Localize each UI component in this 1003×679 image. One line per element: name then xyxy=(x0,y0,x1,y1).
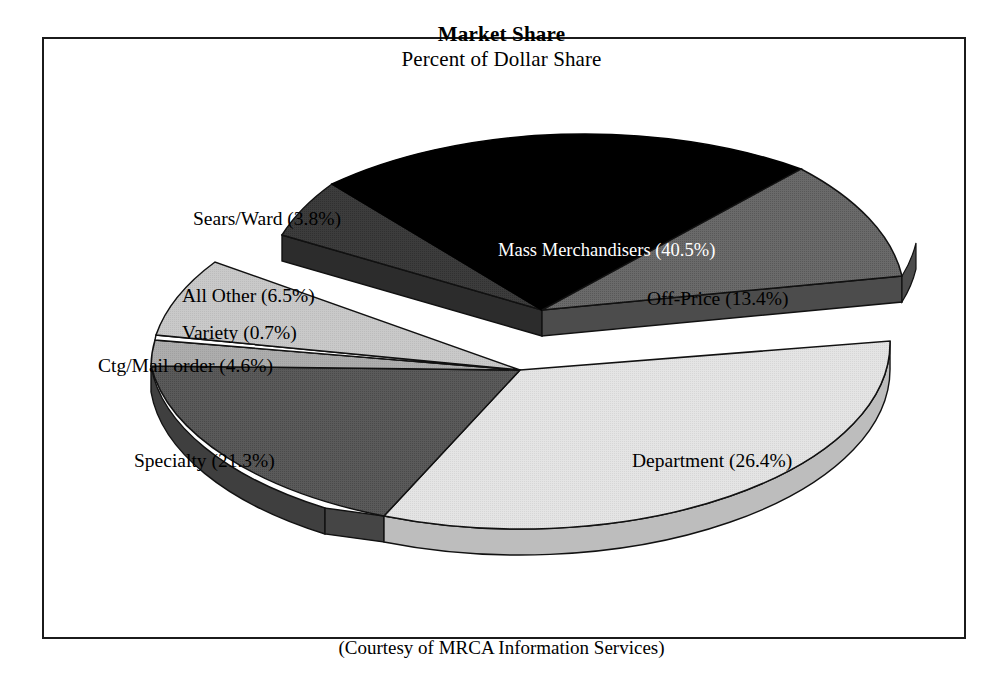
label-ctg-mail-order: Ctg/Mail order (4.6%) xyxy=(98,355,273,377)
label-discount: Discount (23.3%) xyxy=(459,168,598,190)
group-side-right-arc xyxy=(902,243,916,302)
label-variety: Variety (0.7%) xyxy=(182,322,297,344)
label-all-other: All Other (6.5%) xyxy=(182,285,315,307)
label-specialty: Specialty (21.3%) xyxy=(134,450,275,472)
label-department: Department (26.4%) xyxy=(632,450,792,472)
chart-credit: (Courtesy of MRCA Information Services) xyxy=(0,637,1003,659)
label-off-price: Off-Price (13.4%) xyxy=(647,288,789,310)
label-sears-ward: Sears/Ward (3.8%) xyxy=(193,208,341,230)
pie-main-group: Mass Merchandisers (40.5%) Discount (23.… xyxy=(98,134,916,555)
label-mass-merchandisers: Mass Merchandisers (40.5%) xyxy=(498,240,715,261)
figure-root: Market Share Percent of Dollar Share xyxy=(0,0,1003,679)
pie-chart-svg: Mass Merchandisers (40.5%) Discount (23.… xyxy=(42,37,966,639)
exploded-mass-merchandisers-group: Mass Merchandisers (40.5%) xyxy=(282,134,916,336)
